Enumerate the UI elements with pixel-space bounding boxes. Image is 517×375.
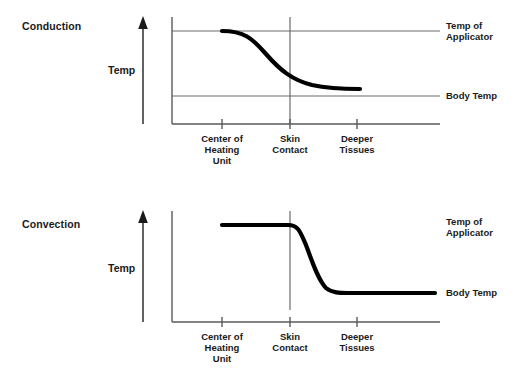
chart-panel-convection: Convection Temp Temp of Applicator Body … bbox=[0, 188, 517, 375]
convection-temperature-curve bbox=[222, 225, 435, 293]
x-tick-label-skin-contact-convection: Skin Contact bbox=[255, 331, 325, 353]
temp-arrow-icon-convection bbox=[138, 210, 148, 322]
applicator-label-line1-convection: Temp of bbox=[446, 216, 482, 227]
tick0-line3: Unit bbox=[213, 155, 231, 166]
tick2-line1-c: Deeper bbox=[341, 331, 373, 342]
tick0-line2-c: Heating bbox=[205, 342, 240, 353]
tick1-line2-c: Contact bbox=[272, 342, 307, 353]
chart-panel-conduction: Conduction Temp Temp of Applicator Body … bbox=[0, 0, 517, 187]
x-tick-label-center-of-heating-unit: Center of Heating Unit bbox=[182, 133, 262, 166]
tick1-line1-c: Skin bbox=[280, 331, 300, 342]
tick0-line3-c: Unit bbox=[213, 353, 231, 364]
tick2-line2-c: Tissues bbox=[339, 342, 374, 353]
conduction-temperature-curve bbox=[222, 31, 360, 89]
applicator-label-line1: Temp of bbox=[446, 20, 482, 31]
x-tick-label-center-of-heating-unit-convection: Center of Heating Unit bbox=[182, 331, 262, 364]
tick0-line1: Center of bbox=[201, 133, 243, 144]
tick2-line1: Deeper bbox=[341, 133, 373, 144]
right-label-applicator-temp-convection: Temp of Applicator bbox=[446, 216, 493, 238]
tick1-line1: Skin bbox=[280, 133, 300, 144]
x-tick-label-skin-contact: Skin Contact bbox=[255, 133, 325, 155]
x-tick-label-deeper-tissues: Deeper Tissues bbox=[322, 133, 392, 155]
right-label-body-temp: Body Temp bbox=[446, 90, 497, 101]
tick0-line1-c: Center of bbox=[201, 331, 243, 342]
tick0-line2: Heating bbox=[205, 144, 240, 155]
tick2-line2: Tissues bbox=[339, 144, 374, 155]
applicator-label-line2: Applicator bbox=[446, 31, 493, 42]
applicator-label-line2-convection: Applicator bbox=[446, 227, 493, 238]
right-label-body-temp-convection: Body Temp bbox=[446, 287, 497, 298]
right-label-applicator-temp: Temp of Applicator bbox=[446, 20, 493, 42]
x-tick-label-deeper-tissues-convection: Deeper Tissues bbox=[322, 331, 392, 353]
temp-arrow-icon bbox=[138, 16, 148, 124]
tick1-line2: Contact bbox=[272, 144, 307, 155]
